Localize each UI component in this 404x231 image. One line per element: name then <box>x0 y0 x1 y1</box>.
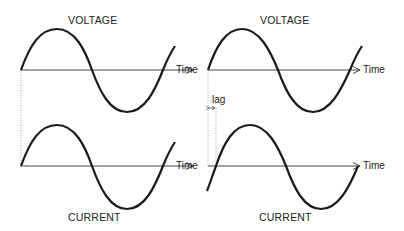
left-current-axis-label: Time <box>176 160 198 171</box>
waveform-diagram <box>0 0 404 231</box>
right-voltage-axis-label: Time <box>363 64 385 75</box>
left-voltage-axis-label: Time <box>176 64 198 75</box>
right-current-axis-label: Time <box>363 160 385 171</box>
lag-label: lag <box>212 94 225 105</box>
right-voltage-label: VOLTAGE <box>260 14 309 26</box>
left-current-label: CURRENT <box>68 211 121 223</box>
left-voltage-label: VOLTAGE <box>68 14 117 26</box>
right-current-label: CURRENT <box>259 211 312 223</box>
left-current-wave <box>21 125 175 209</box>
right-current-wave <box>207 125 358 209</box>
